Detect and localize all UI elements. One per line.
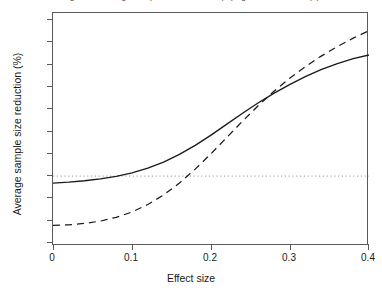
x-tick-mark bbox=[211, 244, 212, 250]
x-tick-label: 0.1 bbox=[124, 252, 138, 263]
x-tick-label: 0.3 bbox=[282, 252, 296, 263]
x-tick-mark bbox=[53, 244, 54, 250]
clipped-caption: Figure 3: Average sample size reduction … bbox=[0, 0, 382, 3]
y-tick-mark bbox=[47, 153, 53, 154]
y-tick-mark bbox=[47, 86, 53, 87]
x-tick-mark bbox=[290, 244, 291, 250]
y-tick-mark bbox=[47, 242, 53, 243]
x-tick-label: 0 bbox=[49, 252, 55, 263]
dashed-curve bbox=[53, 31, 369, 226]
y-tick-mark bbox=[47, 175, 53, 176]
y-tick-mark bbox=[47, 19, 53, 20]
y-tick-mark bbox=[47, 131, 53, 132]
y-tick-mark bbox=[47, 197, 53, 198]
plot-svg bbox=[53, 13, 369, 246]
x-tick-label: 0.2 bbox=[203, 252, 217, 263]
x-tick-mark bbox=[132, 244, 133, 250]
x-tick-mark bbox=[368, 244, 369, 250]
solid-curve bbox=[53, 55, 369, 183]
x-tick-label: 0.4 bbox=[361, 252, 375, 263]
y-tick-mark bbox=[47, 220, 53, 221]
plot-area bbox=[52, 12, 368, 245]
y-tick-mark bbox=[47, 41, 53, 42]
y-axis-title: Average sample size reduction (%) bbox=[11, 34, 23, 234]
figure-container: Figure 3: Average sample size reduction … bbox=[0, 0, 382, 297]
y-tick-mark bbox=[47, 64, 53, 65]
x-axis-title: Effect size bbox=[0, 272, 382, 284]
y-tick-mark bbox=[47, 108, 53, 109]
